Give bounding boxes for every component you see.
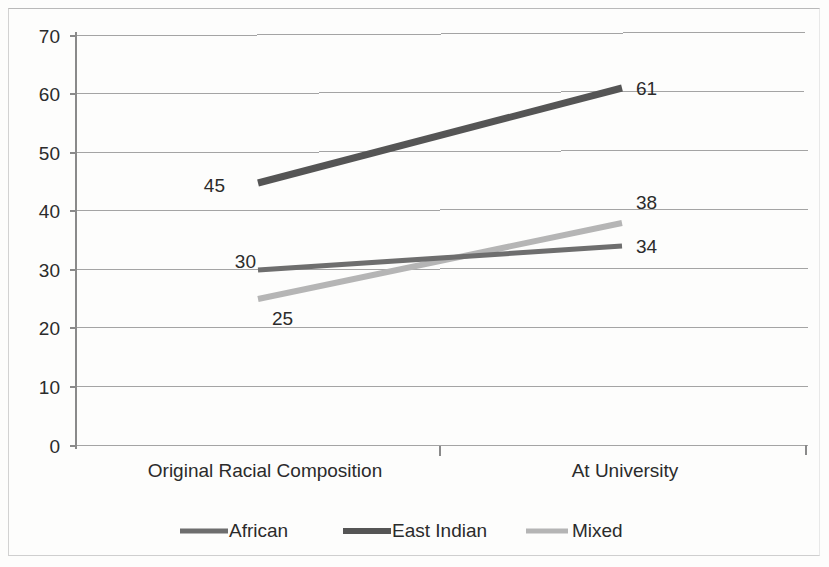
series-line-african xyxy=(258,246,622,270)
gridline-0 xyxy=(76,445,808,446)
series-lines xyxy=(258,88,622,299)
legend-label-mixed: Mixed xyxy=(572,520,623,541)
legend-label-african: African xyxy=(229,520,288,541)
gridlines xyxy=(76,32,808,446)
y-tick-label-0: 0 xyxy=(49,436,60,457)
series-line-mixed xyxy=(258,223,622,299)
data-label-mixed-right: 38 xyxy=(636,192,657,213)
axes xyxy=(70,32,806,456)
gridline-40 xyxy=(76,209,808,211)
gridline-30 xyxy=(76,268,808,270)
line-chart: 70 60 50 40 30 20 10 0 45 61 xyxy=(0,0,829,567)
gridline-70 xyxy=(76,32,808,36)
x-tick-label-at-university: At University xyxy=(572,460,679,481)
gridline-60 xyxy=(76,91,808,94)
y-tick-label-30: 30 xyxy=(39,260,60,281)
gridline-50 xyxy=(76,150,808,153)
y-axis-tick-labels: 70 60 50 40 30 20 10 0 xyxy=(39,26,60,457)
gridline-10 xyxy=(76,386,808,387)
y-tick-label-50: 50 xyxy=(39,143,60,164)
y-tick-label-10: 10 xyxy=(39,377,60,398)
y-tick-label-70: 70 xyxy=(39,26,60,47)
data-label-african-left: 30 xyxy=(235,251,256,272)
legend-item-african[interactable]: African xyxy=(180,520,288,541)
legend-label-east-indian: East Indian xyxy=(392,520,487,541)
data-label-east-indian-left: 45 xyxy=(204,175,225,196)
y-tick-label-40: 40 xyxy=(39,201,60,222)
legend-item-mixed[interactable]: Mixed xyxy=(526,520,623,541)
data-label-african-right: 34 xyxy=(636,236,658,257)
data-label-mixed-left: 25 xyxy=(272,308,293,329)
series-line-east-indian xyxy=(258,88,622,183)
gridline-20 xyxy=(76,327,808,328)
y-tick-label-20: 20 xyxy=(39,318,60,339)
chart-canvas: 70 60 50 40 30 20 10 0 45 61 xyxy=(0,0,829,567)
y-tick-label-60: 60 xyxy=(39,84,60,105)
chart-legend: African East Indian Mixed xyxy=(180,520,623,541)
data-label-east-indian-right: 61 xyxy=(636,78,657,99)
x-axis-tick-labels: Original Racial Composition At Universit… xyxy=(148,460,679,481)
data-labels: 45 61 30 34 25 38 xyxy=(204,78,658,329)
chart-page: 70 60 50 40 30 20 10 0 45 61 xyxy=(0,0,829,567)
x-tick-label-original-racial-composition: Original Racial Composition xyxy=(148,460,382,481)
legend-item-east-indian[interactable]: East Indian xyxy=(343,520,487,541)
